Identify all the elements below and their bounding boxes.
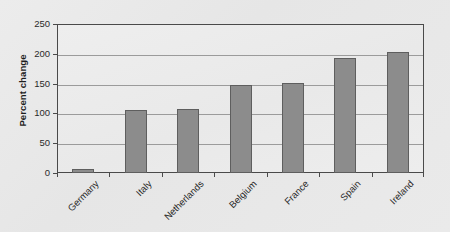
- bar: [334, 58, 356, 173]
- x-axis-tick-mark: [372, 173, 373, 177]
- x-axis-tick-mark: [109, 173, 110, 177]
- y-axis-tick-label: 200: [24, 49, 50, 59]
- x-axis-category-label: Spain: [338, 178, 363, 203]
- bar: [282, 83, 304, 173]
- x-axis-tick-mark: [267, 173, 268, 177]
- x-axis-category-labels: GermanyItalyNetherlandsBelgiumFranceSpai…: [57, 178, 424, 230]
- x-axis-category-label: France: [282, 178, 311, 207]
- y-axis-tick-label: 0: [24, 168, 50, 178]
- x-axis-category-label: Ireland: [387, 178, 415, 206]
- y-axis-tick-labels: 050100150200250: [24, 0, 50, 232]
- y-axis-tick-label: 100: [24, 109, 50, 119]
- x-axis-category-label: Belgium: [226, 178, 258, 210]
- bar: [230, 85, 252, 173]
- bar-chart-figure: Percent change 050100150200250 GermanyIt…: [0, 0, 450, 232]
- y-axis-tick-label: 50: [24, 138, 50, 148]
- bar: [125, 110, 147, 173]
- x-axis-category-label: Germany: [66, 178, 101, 213]
- x-axis-tick-mark: [214, 173, 215, 177]
- bars-layer: [57, 24, 424, 173]
- bar: [177, 109, 199, 173]
- y-axis-tick-label: 250: [24, 19, 50, 29]
- x-axis-tick-mark: [423, 173, 424, 177]
- x-axis-category-label: Netherlands: [162, 178, 206, 222]
- y-axis-tick-label: 150: [24, 79, 50, 89]
- x-axis-category-label: Italy: [133, 178, 153, 198]
- bar: [387, 52, 409, 173]
- x-axis-tick-mark: [162, 173, 163, 177]
- x-axis-tick-mark: [319, 173, 320, 177]
- x-axis-tick-mark: [57, 173, 58, 177]
